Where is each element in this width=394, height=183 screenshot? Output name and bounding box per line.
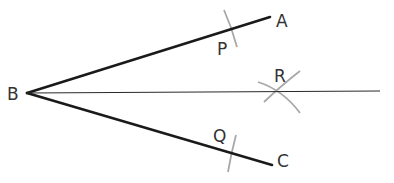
label-c: C [277,151,289,171]
ray-bc [27,93,272,165]
bisector-br [27,91,380,93]
label-q: Q [213,126,226,146]
label-a: A [276,11,288,31]
arc-r-1 [258,82,300,113]
ray-ba [27,17,270,93]
label-b: B [7,84,19,104]
label-p: P [217,39,227,59]
label-r: R [274,66,286,86]
angle-bisector-diagram: B A C P Q R [0,0,394,183]
